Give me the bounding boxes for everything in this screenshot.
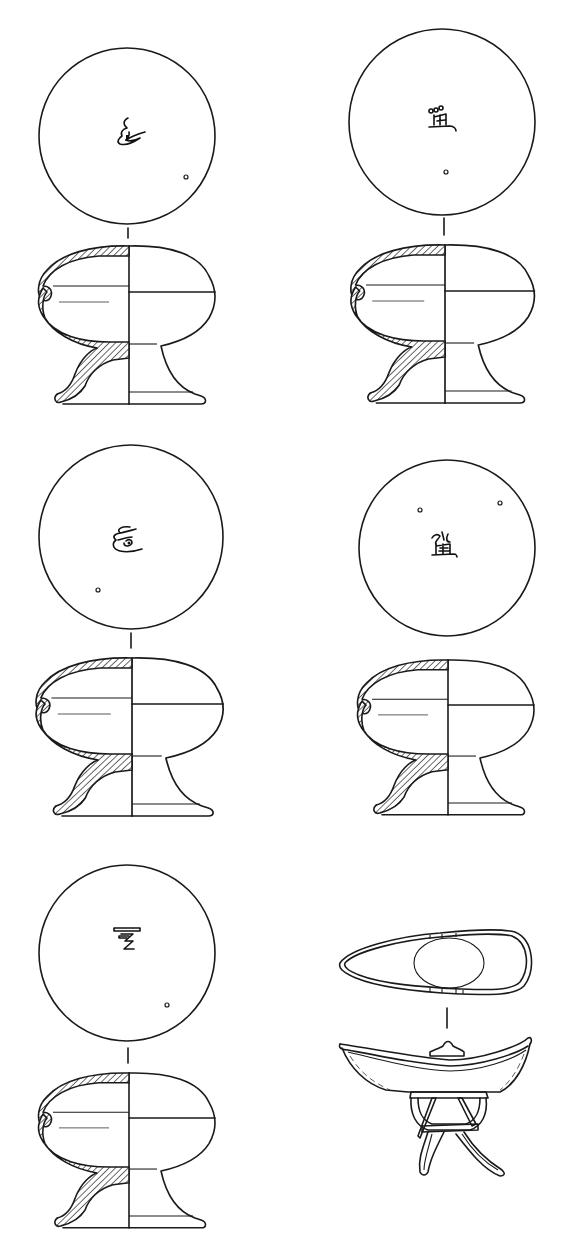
- vessel-2-plan-view: [349, 29, 535, 215]
- small-hole-icon: [444, 170, 448, 174]
- ear-cup-section-view: [339, 1038, 531, 1176]
- inscribed-mark-curl-icon: [113, 527, 142, 552]
- vessel-4-section-view: [358, 660, 535, 815]
- vessel-3-panel: [36, 445, 223, 816]
- vessel-5-plan-view: [39, 865, 215, 1041]
- vessel-2-panel: [349, 29, 535, 403]
- inscribed-mark-zigzag-icon: [114, 928, 140, 949]
- small-hole-icon: [418, 508, 422, 512]
- artifact-drawing-figure: [0, 0, 568, 1251]
- ear-cup-plan-view: [340, 930, 532, 995]
- inscribed-character-icon: [429, 106, 456, 131]
- vessel-5-panel: [39, 865, 216, 1228]
- small-hole-icon: [96, 588, 100, 592]
- vessel-4-panel: [358, 460, 536, 815]
- vessel-3-section-view: [36, 658, 223, 816]
- ear-cup-inner-oval: [414, 938, 484, 988]
- ear-cup-panel: [339, 930, 531, 1176]
- small-hole-icon: [184, 175, 188, 179]
- inscribed-character-icon: [432, 532, 457, 557]
- vessel-1-section-view: [39, 246, 216, 404]
- inscribed-mark-curl-icon: [118, 118, 145, 145]
- small-hole-icon: [165, 1003, 169, 1007]
- vessel-2-section-view: [351, 245, 535, 403]
- vessel-1-panel: [39, 48, 216, 404]
- small-hole-icon: [498, 501, 502, 505]
- vessel-5-section-view: [39, 1073, 216, 1228]
